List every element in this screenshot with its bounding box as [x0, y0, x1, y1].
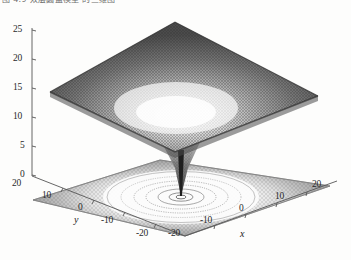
y-tick-10: 10 [42, 190, 51, 200]
z-tick-5: 5 [20, 140, 25, 150]
plot-canvas [0, 0, 351, 260]
funnel-singularity [146, 112, 214, 196]
y-tick-0: 0 [78, 202, 83, 212]
figure-3d-surface-plot: 图 4.9 双层圆盘模型 的三维图 [0, 0, 351, 260]
z-tick-15: 15 [13, 82, 22, 92]
y-tick-20: 20 [12, 178, 21, 188]
z-tick-10: 10 [13, 111, 22, 121]
x-tick-neg10: -10 [200, 215, 212, 225]
z-tick-25: 25 [13, 24, 22, 34]
caption-text: 图 4.9 双层圆盘模型 的三维图 [2, 0, 122, 4]
y-tick-neg20: -20 [136, 228, 148, 238]
x-tick-neg20: -20 [168, 228, 180, 238]
x-tick-20: 20 [312, 179, 321, 189]
y-axis-line [32, 176, 185, 236]
z-tick-20: 20 [13, 53, 22, 63]
x-tick-10: 10 [275, 191, 284, 201]
x-axis-line [185, 181, 337, 236]
figure-caption-cropped: 图 4.9 双层圆盘模型 的三维图 [2, 0, 122, 8]
y-axis-label: y [74, 214, 78, 225]
y-tick-neg10: -10 [101, 215, 113, 225]
x-tick-0: 0 [239, 203, 244, 213]
x-axis-label: x [240, 228, 244, 239]
mesh-surface [50, 22, 318, 158]
